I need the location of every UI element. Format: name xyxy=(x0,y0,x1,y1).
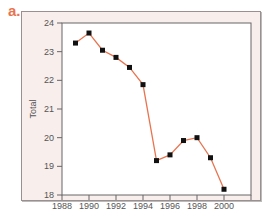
data-point xyxy=(73,41,78,46)
data-point xyxy=(100,48,105,53)
y-tick-label: 22 xyxy=(44,75,54,85)
plot-area xyxy=(62,23,251,195)
x-tick-label: 1988 xyxy=(52,201,72,211)
y-tick-label: 24 xyxy=(44,18,54,28)
x-tick-label: 1996 xyxy=(160,201,180,211)
x-tick-label: 1994 xyxy=(133,201,153,211)
y-tick-label: 23 xyxy=(44,47,54,57)
y-axis-title: Total xyxy=(28,99,38,118)
x-tick-label: 1992 xyxy=(106,201,126,211)
data-point xyxy=(154,158,159,163)
x-tick-label: 1990 xyxy=(79,201,99,211)
x-tick-label: 1998 xyxy=(187,201,207,211)
data-point xyxy=(195,135,200,140)
y-tick-label: 19 xyxy=(44,161,54,171)
line-chart: 1819202122232419881990199219941996199820… xyxy=(0,0,273,216)
data-point xyxy=(87,31,92,36)
data-point xyxy=(181,138,186,143)
data-point xyxy=(127,65,132,70)
y-tick-label: 18 xyxy=(44,190,54,200)
data-point xyxy=(168,152,173,157)
data-point xyxy=(222,187,227,192)
x-axis-title: Year xyxy=(142,214,160,216)
data-point xyxy=(114,55,119,60)
x-tick-label: 2000 xyxy=(214,201,234,211)
data-point xyxy=(141,82,146,87)
y-tick-label: 21 xyxy=(44,104,54,114)
y-tick-label: 20 xyxy=(44,133,54,143)
data-point xyxy=(208,155,213,160)
